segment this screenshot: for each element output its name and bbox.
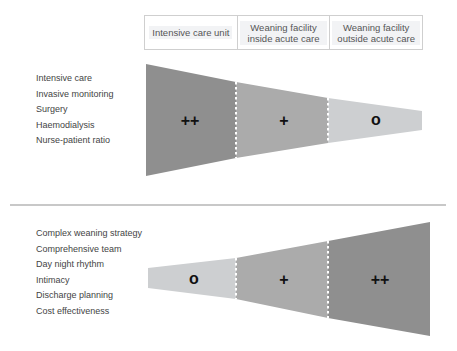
criterion: Cost effectiveness (36, 304, 142, 320)
bottom-rating-icu: o (189, 270, 199, 288)
top-rating-icu: ++ (181, 112, 200, 130)
criterion: Discharge planning (36, 288, 142, 304)
bottom-rating-outside: ++ (371, 271, 390, 289)
criterion: Comprehensive team (36, 242, 142, 258)
section-divider (10, 204, 446, 206)
bottom-criteria-list: Complex weaning strategy Comprehensive t… (36, 226, 142, 319)
bottom-rating-inside: + (279, 271, 288, 289)
criterion: Complex weaning strategy (36, 226, 142, 242)
top-rating-outside: o (371, 111, 381, 129)
criterion: Intimacy (36, 273, 142, 289)
top-rating-inside: + (279, 112, 288, 130)
criterion: Day night rhythm (36, 257, 142, 273)
